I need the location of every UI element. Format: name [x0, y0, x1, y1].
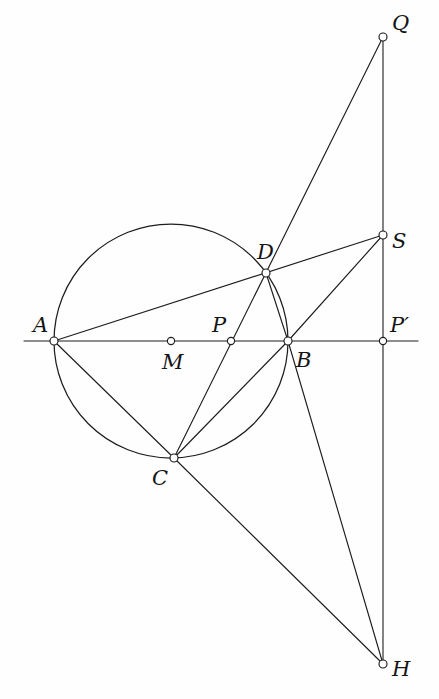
vertex-marker-h [379, 660, 387, 668]
vertex-marker-b [284, 337, 292, 345]
geometry-figure: AMPBP′CDQSH [0, 0, 439, 699]
vertex-marker-c [170, 454, 178, 462]
vertex-label-h: H [391, 657, 411, 681]
vertex-marker-m [167, 337, 174, 344]
vertex-marker-q [379, 33, 387, 41]
geometry-canvas: AMPBP′CDQSH [0, 0, 439, 699]
vertex-marker-p [227, 337, 234, 344]
vertex-marker-pp [379, 337, 386, 344]
vertex-label-s: S [392, 229, 406, 253]
line-D-to-B [266, 273, 288, 341]
segments-group [24, 37, 418, 664]
vertex-label-a: A [31, 313, 48, 337]
vertex-label-d: D [256, 240, 274, 264]
vertex-label-q: Q [392, 11, 409, 35]
line-C-to-H [174, 458, 383, 664]
vertex-label-m: M [161, 350, 184, 374]
line-A-to-C [54, 341, 174, 458]
line-C-to-B [174, 341, 288, 458]
vertex-marker-a [50, 337, 58, 345]
vertex-label-c: C [152, 466, 168, 490]
vertex-marker-s [379, 231, 387, 239]
line-B-to-H [288, 341, 383, 664]
markers-group [50, 33, 387, 668]
vertex-marker-d [262, 269, 270, 277]
labels-group: AMPBP′CDQSH [31, 11, 411, 681]
vertex-label-b: B [295, 348, 311, 372]
vertex-label-pp: P′ [389, 313, 409, 337]
line-C-to-Q [174, 37, 383, 458]
vertex-label-p: P [211, 313, 227, 337]
